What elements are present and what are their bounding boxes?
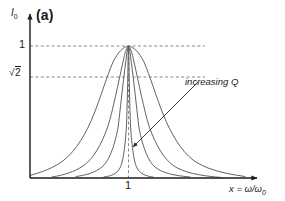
y-axis-tick-label-half-power: √2 (9, 68, 21, 78)
plot-canvas (0, 0, 285, 201)
panel-label: (a) (36, 8, 54, 22)
increasing-q-annotation: increasing Q (185, 77, 238, 87)
x-axis-tick-label-one: 1 (125, 180, 131, 191)
axes (30, 14, 257, 178)
resonance-curves (30, 46, 245, 178)
annotation-arrow (133, 82, 198, 147)
guide-lines (30, 46, 205, 178)
x-axis-label: x = ω/ω0 (229, 184, 266, 196)
curve-q3 (76, 46, 190, 177)
resonance-figure: I0 (a) 1 √2 1 x = ω/ω0 increasing Q (0, 0, 285, 201)
curve-q2 (52, 46, 221, 178)
radicand: 2 (15, 66, 22, 78)
radical-sign: √ (9, 67, 15, 78)
y-axis-label: I0 (11, 8, 18, 20)
y-axis-tick-label-one: 1 (19, 39, 25, 50)
